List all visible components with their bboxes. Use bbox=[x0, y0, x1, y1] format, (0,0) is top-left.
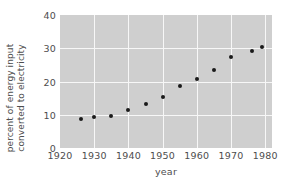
plot-panel bbox=[60, 15, 272, 148]
gridline-x-1960 bbox=[197, 15, 198, 148]
x-axis-title: year bbox=[60, 166, 272, 177]
data-point bbox=[92, 115, 96, 119]
data-point bbox=[229, 55, 233, 59]
data-point bbox=[212, 68, 216, 72]
gridline-y-20 bbox=[60, 82, 272, 83]
data-point bbox=[161, 95, 165, 99]
y-tick-label-20: 20 bbox=[2, 76, 56, 87]
data-point bbox=[79, 117, 83, 121]
x-tick-label-1950: 1950 bbox=[150, 150, 175, 161]
gridline-x-1940 bbox=[128, 15, 129, 148]
data-point bbox=[260, 45, 264, 49]
x-tick-label-1960: 1960 bbox=[184, 150, 209, 161]
data-point bbox=[250, 49, 254, 53]
x-tick-label-1970: 1970 bbox=[219, 150, 244, 161]
y-tick-label-30: 30 bbox=[2, 43, 56, 54]
x-tick-label-1980: 1980 bbox=[253, 150, 278, 161]
x-tick-label-1940: 1940 bbox=[116, 150, 141, 161]
data-point bbox=[109, 114, 113, 118]
gridline-y-30 bbox=[60, 48, 272, 49]
data-point bbox=[144, 102, 148, 106]
data-point bbox=[195, 77, 199, 81]
y-tick-label-10: 10 bbox=[2, 109, 56, 120]
y-axis-tick-labels: 0 10 20 30 40 bbox=[0, 15, 56, 148]
gridline-x-1930 bbox=[94, 15, 95, 148]
x-tick-label-1930: 1930 bbox=[82, 150, 107, 161]
x-axis-tick-labels: 1920 1930 1940 1950 1960 1970 1980 bbox=[60, 150, 272, 164]
x-tick-label-1920: 1920 bbox=[48, 150, 73, 161]
scatter-chart-figure: percent of energy input converted to ele… bbox=[0, 0, 287, 196]
gridline-x-1970 bbox=[231, 15, 232, 148]
data-point bbox=[126, 108, 130, 112]
data-point bbox=[178, 84, 182, 88]
gridline-x-1950 bbox=[163, 15, 164, 148]
gridline-x-1980 bbox=[265, 15, 266, 148]
y-tick-label-40: 40 bbox=[2, 10, 56, 21]
